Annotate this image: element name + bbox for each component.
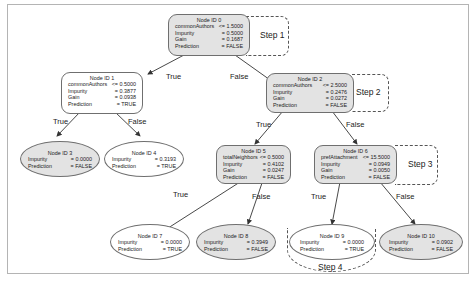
edge-label-5-7: True [173, 190, 188, 199]
prediction-label: Prediction [273, 102, 297, 108]
step-2-label: Step 2 [356, 87, 381, 97]
prediction-label: Prediction [68, 101, 92, 107]
edge-label-0-1: True [166, 72, 181, 81]
tree-node-2: Node ID 2 commonAuthors<= 2.5000 Impurit… [266, 73, 354, 113]
edge-label-0-2: False [230, 72, 248, 81]
tree-node-8: Node ID 8 Impurity= 0.3949 Prediction= F… [196, 224, 276, 260]
step-1-label: Step 1 [260, 30, 285, 40]
prediction-label: Prediction [175, 43, 199, 49]
prediction-value: = FALSE [432, 246, 453, 252]
prediction-label: Prediction [321, 174, 345, 180]
prediction-label: Prediction [28, 163, 52, 169]
tree-node-10: Node ID 10 Impurity= 0.0902 Prediction= … [379, 224, 463, 260]
prediction-label: Prediction [300, 246, 324, 252]
prediction-label: Prediction [112, 163, 136, 169]
prediction-value: = TRUE [345, 246, 364, 252]
edge-label-2-5: True [256, 120, 271, 129]
tree-node-7: Node ID 7 Impurity= 0.0000 Prediction= T… [110, 224, 190, 260]
prediction-value: = FALSE [71, 163, 92, 169]
edge-label-1-4: False [128, 117, 146, 126]
step-4-label: Step 4 [318, 262, 343, 272]
tree-node-1: Node ID 1 commonAuthors<= 0.5000 Impurit… [61, 72, 143, 114]
prediction-value: = TRUE [163, 246, 182, 252]
tree-node-9: Node ID 9 Impurity= 0.0000 Prediction= T… [289, 224, 375, 260]
step-3-label: Step 3 [408, 159, 433, 169]
prediction-value: = FALSE [326, 102, 347, 108]
tree-node-6: Node ID 6 prefAttachment<= 15.5000 Impur… [314, 145, 397, 184]
edge-label-1-3: True [53, 117, 68, 126]
prediction-label: Prediction [223, 174, 247, 180]
tree-node-0: Node ID 0 commonAuthors<= 1.5000 Impurit… [168, 14, 250, 56]
prediction-label: Prediction [204, 246, 228, 252]
prediction-label: Prediction [389, 246, 413, 252]
tree-node-4: Node ID 4 Impurity= 0.3193 Prediction= T… [104, 141, 184, 177]
edge-label-5-8: False [252, 192, 270, 201]
prediction-value: = FALSE [369, 174, 390, 180]
edge-label-2-6: False [346, 120, 364, 129]
prediction-value: = TRUE [117, 101, 136, 107]
tree-node-3: Node ID 3 Impurity= 0.0000 Prediction= F… [20, 141, 100, 177]
edge-label-6-10: False [396, 192, 414, 201]
prediction-value: = FALSE [247, 246, 268, 252]
prediction-value: = FALSE [263, 174, 284, 180]
edge-label-6-9: True [311, 192, 326, 201]
prediction-label: Prediction [118, 246, 142, 252]
prediction-value: = FALSE [222, 43, 243, 49]
prediction-value: = TRUE [157, 163, 176, 169]
tree-node-5: Node ID 5 totalNeighbors<= 0.5000 Impuri… [216, 145, 291, 184]
